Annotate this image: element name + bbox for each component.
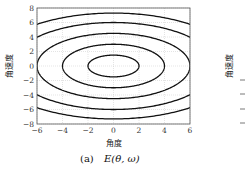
x-axis-ticks: −6−4−20246: [31, 126, 192, 135]
contour-lines: [0, 13, 238, 119]
y-tick-label: 8: [29, 4, 34, 13]
y-tick-label: −8: [23, 120, 34, 129]
second-panel-tick-marks: [240, 80, 245, 123]
x-tick-label: −2: [82, 126, 93, 135]
x-tick-label: −4: [57, 126, 68, 135]
y-tick-label: 4: [29, 33, 34, 42]
second-panel-y-axis-label: 角速度: [224, 54, 234, 78]
caption-math: E(θ, ω): [103, 153, 140, 164]
y-axis-label: 角速度: [4, 54, 14, 78]
y-tick-label: 2: [29, 47, 34, 56]
y-tick-label: −2: [23, 76, 34, 85]
caption-label: (a): [80, 153, 94, 164]
x-tick-label: 2: [137, 126, 142, 135]
y-tick-label: 0: [29, 62, 34, 71]
contour-line: [0, 13, 238, 119]
x-tick-label: 0: [111, 126, 116, 135]
x-axis-label: 角度: [106, 138, 122, 148]
y-tick-label: 6: [29, 18, 34, 27]
x-tick-label: 6: [188, 126, 193, 135]
grid-lines: [37, 8, 190, 124]
y-tick-label: −6: [23, 105, 34, 114]
y-axis-ticks: −8−6−4−202468: [23, 4, 34, 129]
figure: −6−4−20246 −8−6−4−202468 角度 角速度 (a) E(θ,…: [0, 0, 245, 170]
y-tick-label: −4: [23, 91, 34, 100]
x-tick-label: 4: [162, 126, 167, 135]
